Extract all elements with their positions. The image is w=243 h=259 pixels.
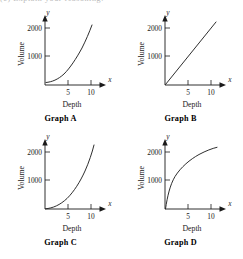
graph-panel-d: y x 2000 1000 5 10 Depth Volume Graph D: [120, 130, 241, 256]
x-axis-name-label: Depth: [182, 224, 201, 233]
graph-panel-c: y x 2000 1000 5 10 Depth Volume Graph C: [0, 130, 121, 256]
x-axis-var-label: x: [227, 199, 232, 208]
graph-c-plot: y x 2000 1000 5 10 Depth Volume: [0, 130, 121, 240]
graph-panel-a: y x 2000 1000 5 10 Depth Volume Graph A: [0, 6, 121, 132]
x-axis-var-label: x: [107, 199, 112, 208]
x-axis-name-label: Depth: [62, 100, 81, 109]
graph-panel-b: y x 2000 1000 5 10 Depth Volume Graph B: [120, 6, 241, 132]
x-axis-var-label: x: [107, 75, 112, 84]
x-tick-label-5: 5: [186, 88, 190, 97]
x-tick-label-10: 10: [87, 212, 95, 221]
x-tick-label-10: 10: [207, 88, 215, 97]
y-axis-var-label: y: [45, 132, 50, 141]
x-axis-arrow-icon: [220, 82, 227, 87]
graph-d-caption: Graph D: [120, 238, 241, 247]
x-axis-name-label: Depth: [182, 100, 201, 109]
y-axis-name-label: Volume: [137, 165, 146, 190]
graph-d-curve: [166, 147, 218, 209]
y-tick-label-1000: 1000: [27, 176, 42, 185]
x-tick-label-10: 10: [207, 212, 215, 221]
graph-b-curve: [166, 22, 217, 85]
graph-c-caption: Graph C: [0, 238, 121, 247]
graph-c-curve: [46, 145, 95, 209]
x-tick-label-10: 10: [87, 88, 95, 97]
y-tick-label-2000: 2000: [147, 148, 162, 157]
graph-b-caption: Graph B: [120, 114, 241, 123]
x-tick-label-5: 5: [66, 212, 70, 221]
y-tick-label-2000: 2000: [147, 24, 162, 33]
x-axis-var-label: x: [227, 75, 232, 84]
x-axis-arrow-icon: [100, 206, 107, 211]
y-axis-var-label: y: [45, 8, 50, 17]
graph-b-plot: y x 2000 1000 5 10 Depth Volume: [120, 6, 241, 116]
y-axis-name-label: Volume: [17, 165, 26, 190]
x-tick-label-5: 5: [186, 212, 190, 221]
graph-a-caption: Graph A: [0, 114, 121, 123]
graph-grid: y x 2000 1000 5 10 Depth Volume Graph A …: [0, 6, 243, 259]
y-axis-var-label: y: [165, 8, 170, 17]
y-axis-name-label: Volume: [17, 41, 26, 66]
y-axis-var-label: y: [165, 132, 170, 141]
x-axis-arrow-icon: [220, 206, 227, 211]
graph-a-curve: [46, 25, 92, 83]
y-axis-name-label: Volume: [137, 41, 146, 66]
x-axis-name-label: Depth: [62, 224, 81, 233]
x-tick-label-5: 5: [66, 88, 70, 97]
y-tick-label-1000: 1000: [147, 52, 162, 61]
y-tick-label-2000: 2000: [27, 148, 42, 157]
graph-a-plot: y x 2000 1000 5 10 Depth Volume: [0, 6, 121, 116]
y-tick-label-1000: 1000: [27, 52, 42, 61]
y-tick-label-1000: 1000: [147, 176, 162, 185]
x-axis-arrow-icon: [100, 82, 107, 87]
graph-d-plot: y x 2000 1000 5 10 Depth Volume: [120, 130, 241, 240]
y-tick-label-2000: 2000: [27, 24, 42, 33]
